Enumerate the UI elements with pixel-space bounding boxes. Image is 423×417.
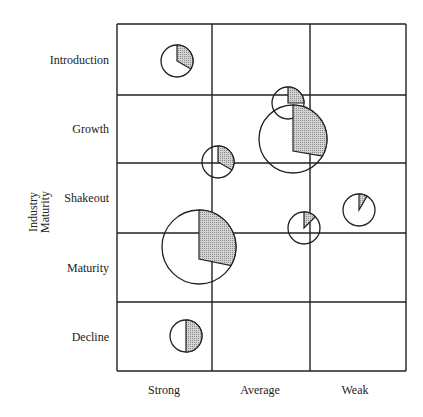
bubble	[162, 210, 236, 284]
bubble	[170, 320, 202, 352]
row-label-introduction: Introduction	[9, 53, 109, 68]
bubbles	[161, 45, 375, 352]
row-label-maturity: Maturity	[9, 261, 109, 276]
market-share-wedge	[177, 45, 193, 69]
market-share-wedge	[199, 210, 236, 266]
col-label-weak: Weak	[315, 383, 395, 398]
market-share-wedge	[359, 194, 367, 210]
bubble	[202, 146, 234, 178]
row-label-growth: Growth	[9, 122, 109, 137]
bubble	[161, 45, 193, 77]
market-share-wedge	[288, 87, 304, 103]
row-label-shakeout: Shakeout	[9, 191, 109, 206]
bubble	[343, 194, 375, 226]
col-label-average: Average	[220, 383, 300, 398]
row-label-decline: Decline	[9, 330, 109, 345]
market-share-wedge	[186, 320, 202, 352]
market-share-wedge	[293, 105, 327, 156]
col-label-strong: Strong	[124, 383, 204, 398]
market-share-wedge	[218, 146, 234, 170]
bubble	[288, 212, 320, 244]
